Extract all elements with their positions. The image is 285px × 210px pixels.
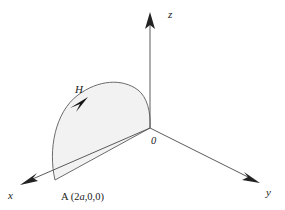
x-axis-arrowhead	[20, 173, 38, 185]
y-axis-label: y	[265, 186, 271, 198]
enclosed-region-fill	[52, 82, 150, 180]
y-axis-arrowhead	[242, 172, 260, 183]
coordinate-axes-diagram: z y x 0 H A (2a,0,0)	[0, 0, 285, 210]
z-axis-label: z	[167, 8, 173, 20]
curve-h-label: H	[74, 83, 84, 95]
y-axis-line	[150, 128, 252, 179]
point-a-suffix: ,0,0)	[85, 191, 105, 203]
x-axis-label: x	[7, 189, 13, 201]
origin-label: 0	[151, 135, 157, 146]
point-a-prefix: A (2	[61, 191, 79, 203]
point-a-label: A (2a,0,0)	[61, 191, 104, 203]
